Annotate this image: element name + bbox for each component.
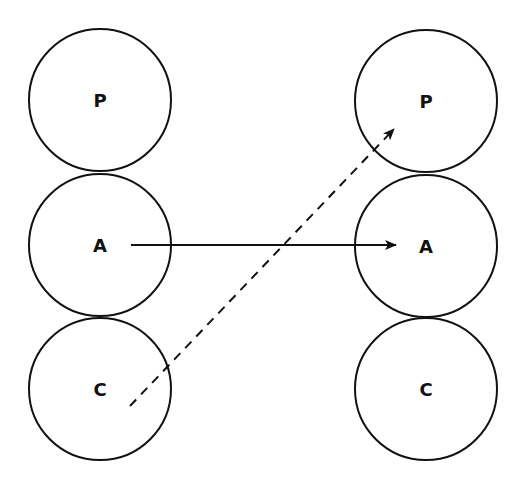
right-node-c: C <box>355 318 497 460</box>
left-node-a-label: A <box>93 235 107 256</box>
left-node-p-label: P <box>93 90 106 111</box>
dashed-arrow-c-to-p <box>130 129 394 406</box>
right-node-p: P <box>355 30 497 172</box>
left-node-c-label: C <box>93 379 106 400</box>
right-node-a-label: A <box>419 236 433 257</box>
right-node-c-label: C <box>419 379 432 400</box>
right-node-p-label: P <box>419 91 432 112</box>
diagram-canvas: P A C P A C <box>0 0 523 485</box>
left-node-p: P <box>29 29 171 171</box>
left-node-c: C <box>29 318 171 460</box>
